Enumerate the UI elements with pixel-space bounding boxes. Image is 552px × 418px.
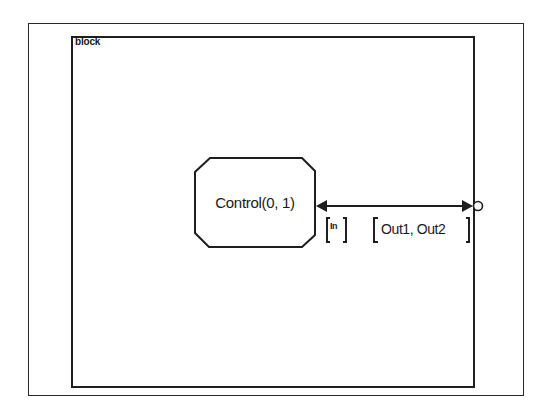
input-label: In bbox=[330, 219, 337, 233]
diagram-canvas: block Control(0, 1) In Out1, Out2 bbox=[0, 0, 552, 418]
control-node-label: Control(0, 1) bbox=[194, 157, 316, 248]
arrowhead-left-icon bbox=[316, 200, 327, 212]
arrowhead-right-icon bbox=[462, 200, 473, 212]
output-label: Out1, Out2 bbox=[381, 222, 445, 236]
boundary-port-icon[interactable] bbox=[474, 202, 483, 211]
